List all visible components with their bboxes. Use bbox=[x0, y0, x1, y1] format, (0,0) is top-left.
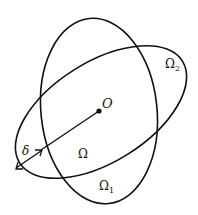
domain-diagram: O Ω Ω1 Ω2 δ bbox=[0, 0, 198, 215]
label-omega-2: Ω2 bbox=[165, 57, 180, 73]
radius-line bbox=[41, 111, 99, 150]
label-omega: Ω bbox=[78, 147, 88, 161]
label-omega-1: Ω1 bbox=[99, 179, 114, 195]
label-center-O: O bbox=[102, 96, 113, 111]
center-point bbox=[96, 108, 101, 113]
label-delta: δ bbox=[22, 144, 29, 158]
